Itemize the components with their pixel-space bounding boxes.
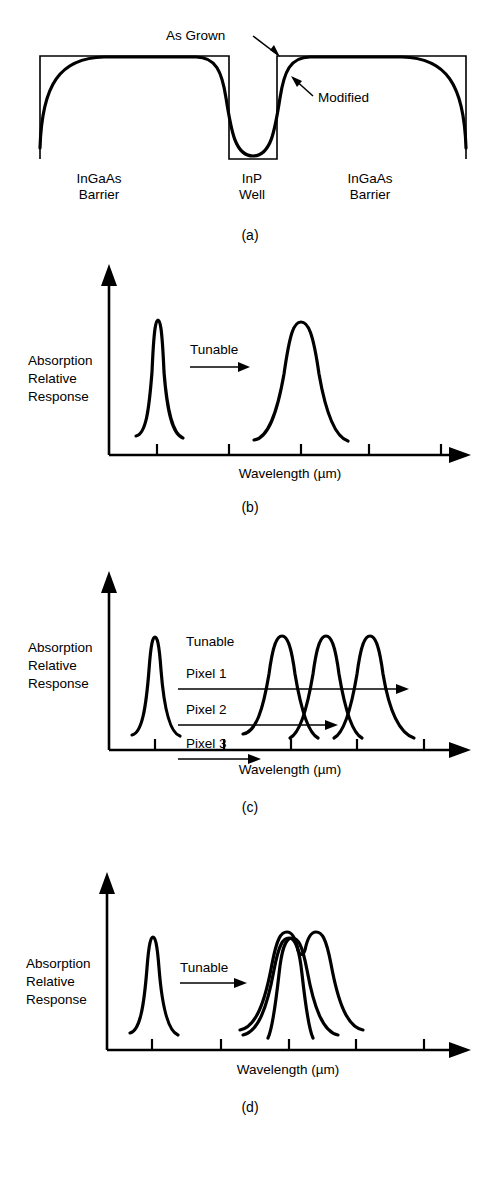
tuned-peak-curve-b xyxy=(254,322,348,441)
tunable-arrowhead-b xyxy=(238,362,250,372)
tunable-label-d: Tunable xyxy=(180,960,228,975)
y-axis-label-b-line1: Absorption xyxy=(28,353,93,368)
as-grown-profile xyxy=(40,56,466,159)
panel-d: Tunable Absorption Relative Response Wav… xyxy=(0,850,501,1150)
as-grown-peak-curve-c xyxy=(132,637,180,736)
y-axis-label-d-line1: Absorption xyxy=(26,956,91,971)
as-grown-arrowhead xyxy=(270,45,280,57)
as-grown-label: As Grown xyxy=(166,28,225,43)
y-axis-label-b-line2: Relative xyxy=(28,371,77,386)
y-axis-label-c-line2: Relative xyxy=(28,658,77,673)
panel-c: Tunable Pixel 1 Pixel 2 Pixel 3 Absorpti… xyxy=(0,542,501,850)
pixel-1-arrowhead xyxy=(396,684,409,694)
x-axis-arrowhead-b xyxy=(449,447,471,463)
left-barrier-label-line1: InGaAs xyxy=(76,171,121,186)
as-grown-peak-curve-d xyxy=(130,937,178,1035)
well-label-line1: InP xyxy=(242,171,262,186)
y-axis-arrowhead-d xyxy=(99,872,115,894)
y-axis-arrowhead-b xyxy=(101,264,117,286)
tunable-arrowhead-d xyxy=(234,978,247,988)
pixel-3-label: Pixel 3 xyxy=(186,736,227,751)
tunable-label-c: Tunable xyxy=(186,634,234,649)
panel-b: Tunable Absorption Relative Response Wav… xyxy=(0,250,501,542)
pixel-2-arrowhead xyxy=(325,720,338,730)
panel-b-caption: (b) xyxy=(241,499,258,515)
x-axis-label-c: Wavelength (µm) xyxy=(239,762,342,777)
y-axis-arrowhead-c xyxy=(101,571,117,593)
x-axis-arrowhead-d xyxy=(449,1042,471,1058)
left-barrier-label-line2: Barrier xyxy=(79,187,120,202)
modified-profile xyxy=(40,57,466,156)
panel-a: As Grown Modified InGaAs Barrier InP Wel… xyxy=(0,0,501,250)
y-axis-label-b-line3: Response xyxy=(28,389,89,404)
panel-c-caption: (c) xyxy=(242,799,258,815)
y-axis-label-c-line3: Response xyxy=(28,676,89,691)
right-barrier-label-line1: InGaAs xyxy=(347,171,392,186)
pixel-2-label: Pixel 2 xyxy=(186,702,227,717)
y-axis-label-d-line3: Response xyxy=(26,992,87,1007)
y-axis-label-d-line2: Relative xyxy=(26,974,75,989)
well-label-line2: Well xyxy=(239,187,265,202)
figure-container: As Grown Modified InGaAs Barrier InP Wel… xyxy=(0,0,501,1195)
y-axis-label-c-line1: Absorption xyxy=(28,640,93,655)
pixel-1-label: Pixel 1 xyxy=(186,666,227,681)
pixel-3-peak-curve-c xyxy=(243,636,318,738)
as-grown-peak-curve-b xyxy=(136,320,183,438)
panel-a-caption: (a) xyxy=(241,227,258,243)
tunable-label-b: Tunable xyxy=(190,342,238,357)
right-barrier-label-line2: Barrier xyxy=(350,187,391,202)
x-axis-label-b: Wavelength (µm) xyxy=(239,466,342,481)
x-axis-arrowhead-c xyxy=(449,742,471,758)
modified-label: Modified xyxy=(318,90,369,105)
x-axis-label-d: Wavelength (µm) xyxy=(237,1062,340,1077)
panel-d-caption: (d) xyxy=(241,1099,258,1115)
